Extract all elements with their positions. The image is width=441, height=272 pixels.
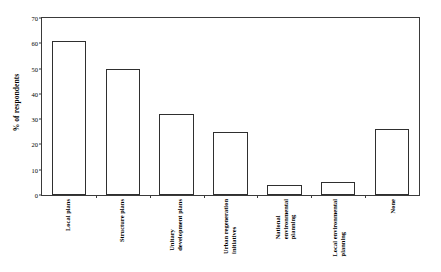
bar-slot bbox=[150, 18, 204, 195]
x-axis-label-line: planning bbox=[288, 199, 296, 239]
y-axis-tick-mark bbox=[39, 169, 42, 170]
bars-layer bbox=[42, 18, 419, 195]
x-axis-label: Structure plans bbox=[118, 199, 126, 242]
bar-slot bbox=[365, 18, 419, 195]
y-axis-tick-label: 50 bbox=[8, 65, 42, 72]
y-axis-tick-label: 20 bbox=[8, 141, 42, 148]
x-axis-labels: Local plansStructure plansUnitarydevelop… bbox=[41, 199, 420, 272]
x-axis-label-line: environmental bbox=[281, 199, 289, 239]
bar[interactable] bbox=[267, 185, 301, 195]
x-axis-tick-mark bbox=[257, 195, 258, 198]
y-axis-tick-label: 60 bbox=[8, 40, 42, 47]
x-axis-label-slot: Structure plans bbox=[95, 199, 149, 272]
y-axis-tick-label: 70 bbox=[8, 15, 42, 22]
x-axis-label-slot: Urban regenerationinitiatives bbox=[203, 199, 257, 272]
x-axis-tick-mark bbox=[311, 195, 312, 198]
y-axis-tick-mark bbox=[39, 18, 42, 19]
y-axis-tick-label: 0 bbox=[8, 192, 42, 199]
x-axis-label-slot: None bbox=[366, 199, 420, 272]
bar[interactable] bbox=[213, 132, 247, 195]
y-axis-tick-mark bbox=[39, 119, 42, 120]
y-axis-tick-label: 30 bbox=[8, 116, 42, 123]
y-axis-tick-label: 40 bbox=[8, 90, 42, 97]
x-axis-label-slot: Nationalenvironmentalplanning bbox=[258, 199, 312, 272]
x-axis-label: Unitarydevelopment plans bbox=[169, 199, 184, 251]
y-axis-tick-mark bbox=[39, 43, 42, 44]
x-axis-label-line: National bbox=[273, 199, 281, 239]
y-axis-tick-mark bbox=[39, 68, 42, 69]
bar-chart: % of respondents 010203040506070 Local p… bbox=[0, 0, 441, 272]
plot-area: 010203040506070 bbox=[41, 17, 420, 196]
bar-slot bbox=[311, 18, 365, 195]
bar-slot bbox=[204, 18, 258, 195]
bar[interactable] bbox=[375, 129, 409, 195]
x-axis-label-line: development plans bbox=[176, 199, 184, 251]
x-axis-label: Local plans bbox=[64, 199, 72, 231]
x-axis-label-slot: Local environmentalplanning bbox=[312, 199, 366, 272]
bar[interactable] bbox=[52, 41, 86, 195]
x-axis-tick-mark bbox=[96, 195, 97, 198]
bar[interactable] bbox=[321, 182, 355, 195]
x-axis-label-line: Urban regeneration bbox=[223, 199, 231, 254]
x-axis-tick-mark bbox=[365, 195, 366, 198]
bar[interactable] bbox=[106, 69, 140, 195]
y-axis-tick-mark bbox=[39, 195, 42, 196]
y-axis-tick-mark bbox=[39, 144, 42, 145]
y-axis-tick-mark bbox=[39, 93, 42, 94]
x-axis-label: Nationalenvironmentalplanning bbox=[273, 199, 296, 239]
bar[interactable] bbox=[159, 114, 193, 195]
x-axis-label: None bbox=[389, 199, 397, 213]
bar-slot bbox=[257, 18, 311, 195]
bar-slot bbox=[42, 18, 96, 195]
x-axis-label-line: None bbox=[389, 199, 397, 213]
bar-slot bbox=[96, 18, 150, 195]
x-axis-label-line: Structure plans bbox=[118, 199, 126, 242]
x-axis-label-line: Local plans bbox=[64, 199, 72, 231]
y-axis-tick-label: 10 bbox=[8, 166, 42, 173]
x-axis-tick-mark bbox=[150, 195, 151, 198]
x-axis-label-line: planning bbox=[339, 199, 347, 256]
x-axis-label: Local environmentalplanning bbox=[331, 199, 346, 256]
x-axis-label-line: initiatives bbox=[230, 199, 238, 254]
x-axis-label-slot: Local plans bbox=[41, 199, 95, 272]
x-axis-label: Urban regenerationinitiatives bbox=[223, 199, 238, 254]
x-axis-label-line: Local environmental bbox=[331, 199, 339, 256]
x-axis-tick-mark bbox=[204, 195, 205, 198]
x-axis-label-slot: Unitarydevelopment plans bbox=[149, 199, 203, 272]
